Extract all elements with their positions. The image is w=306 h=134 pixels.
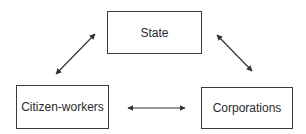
node-state: State	[107, 11, 202, 54]
diagram-canvas: State Citizen-workers Corporations	[0, 0, 306, 134]
edge-state-corporations	[217, 35, 252, 71]
node-label: Corporations	[213, 101, 282, 115]
node-label: Citizen-workers	[21, 100, 104, 114]
edge-citizen-state	[56, 34, 95, 74]
node-corporations: Corporations	[201, 87, 293, 129]
node-label: State	[140, 26, 168, 40]
node-citizen-workers: Citizen-workers	[16, 85, 109, 129]
